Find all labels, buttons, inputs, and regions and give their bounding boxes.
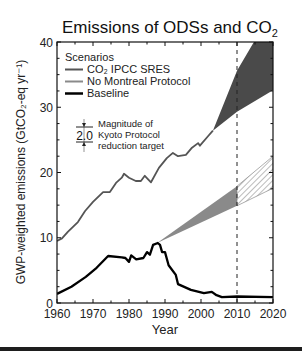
legend-label: Baseline [87,87,129,99]
kyoto-note-line-1: Magnitude of [98,118,153,129]
legend-title: Scenarios [65,51,114,63]
x-tick-label: 1990 [152,307,179,321]
x-tick-label: 1980 [116,307,143,321]
legend-label: CO₂ IPCC SRES [87,63,170,75]
band-1 [157,186,237,243]
x-tick-label: 2000 [188,307,215,321]
legend-label: No Montreal Protocol [87,75,190,87]
chart: Emissions of ODSs and CO2 19601970198019… [0,0,302,356]
band-2 [237,156,273,206]
y-tick-label: 20 [40,166,54,180]
y-tick-label: 10 [40,231,54,245]
chart-title: Emissions of ODSs and CO2 [62,18,278,39]
y-tick-label: 30 [40,101,54,115]
x-axis-label: Year [152,322,179,337]
kyoto-note-line-2: Kyoto Protocol [98,129,160,140]
band-0 [213,42,273,131]
y-tick-label: 40 [40,36,54,50]
data-series [57,131,273,297]
legend: Scenarios CO₂ IPCC SRESNo Montreal Proto… [65,51,190,99]
x-tick-label: 2020 [260,307,287,321]
y-tick-label: 0 [46,297,53,311]
projection-bands [157,42,273,243]
y-axis-label: GWP-weighted emissions (GtCO₂-eq yr⁻¹) [14,60,28,285]
kyoto-magnitude-value: 2.0 [76,129,93,143]
kyoto-magnitude-annotation: 2.0 Magnitude of Kyoto Protocol reductio… [76,118,164,152]
x-tick-label: 1970 [80,307,107,321]
bottom-divider-bar [0,347,302,351]
series-baseline [57,243,273,297]
kyoto-note-line-3: reduction target [98,140,164,151]
x-tick-label: 2010 [224,307,251,321]
